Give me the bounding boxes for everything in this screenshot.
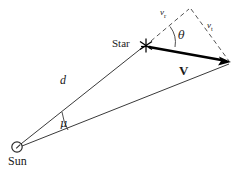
radial-velocity-label: vr [160,8,166,19]
distance-line [19,47,143,146]
theta-angle-label: θ [178,30,185,41]
sun-label: Sun [8,155,27,167]
tangential-velocity-subscript: t [211,25,213,32]
star-asterisk-icon [140,39,152,53]
theta-angle-arc [170,27,175,48]
figure-canvas: Sun Star d μ θ V vr vt [0,0,243,175]
star-label: Star [112,38,130,49]
proper-motion-label: μ [60,118,67,129]
tangential-velocity-label: vt [207,21,213,32]
distance-label: d [60,74,66,86]
radial-velocity-subscript: r [164,12,166,19]
baseline-line [20,64,230,147]
space-velocity-vector [149,47,224,61]
tangential-velocity-dashed-line [191,9,229,61]
space-velocity-label: V [179,64,188,77]
